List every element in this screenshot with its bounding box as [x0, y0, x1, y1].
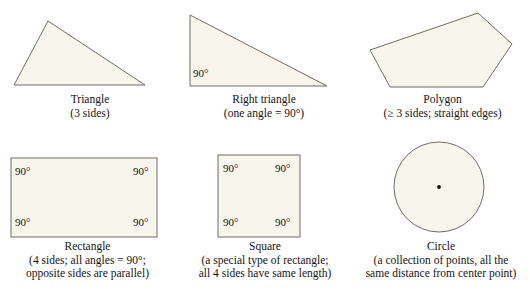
caption-triangle-desc: (3 sides) [20, 107, 160, 121]
caption-circle: Circle (a collection of points, all the … [352, 240, 530, 281]
cut-off-text-remnant [0, 0, 530, 4]
right-triangle-shape [190, 15, 327, 86]
caption-right-triangle-name: Right triangle [188, 93, 340, 107]
circle-center-point [437, 185, 441, 189]
caption-square-desc-line1: (a special type of rectangle; [175, 254, 355, 268]
angle-label-rectangle-3: 90° [15, 217, 30, 228]
caption-square-name: Square [175, 240, 355, 254]
circle-shape [394, 142, 484, 232]
caption-rectangle-desc-line1: (4 sides; all angles = 90°; [0, 254, 175, 268]
caption-right-triangle: Right triangle (one angle = 90°) [188, 93, 340, 120]
angle-label-square-3: 90° [223, 217, 238, 228]
angle-label-rectangle-4: 90° [133, 217, 148, 228]
caption-polygon: Polygon (≥ 3 sides; straight edges) [355, 93, 530, 120]
caption-circle-name: Circle [352, 240, 530, 254]
caption-square-desc-line2: all 4 sides have same length) [175, 267, 355, 281]
polygon-shape [370, 13, 512, 87]
caption-circle-desc-line2: same distance from center point) [352, 267, 530, 281]
angle-label-square-1: 90° [223, 163, 238, 174]
caption-triangle-name: Triangle [20, 93, 160, 107]
angle-label-right-triangle-1: 90° [193, 68, 208, 79]
angle-label-square-2: 90° [275, 163, 290, 174]
caption-rectangle-desc-line2: opposite sides are parallel) [0, 267, 175, 281]
caption-rectangle: Rectangle (4 sides; all angles = 90°; op… [0, 240, 175, 281]
caption-right-triangle-desc: (one angle = 90°) [188, 107, 340, 121]
angle-label-rectangle-2: 90° [133, 166, 148, 177]
angle-label-square-4: 90° [275, 217, 290, 228]
triangle-shape [14, 21, 145, 85]
caption-triangle: Triangle (3 sides) [20, 93, 160, 120]
caption-rectangle-name: Rectangle [0, 240, 175, 254]
caption-polygon-desc: (≥ 3 sides; straight edges) [355, 107, 530, 121]
caption-polygon-name: Polygon [355, 93, 530, 107]
caption-square: Square (a special type of rectangle; all… [175, 240, 355, 281]
caption-circle-desc-line1: (a collection of points, all the [352, 254, 530, 268]
geometry-shapes-figure: 90°90°90°90°90°90°90°90°90° Triangle (3 … [0, 0, 530, 300]
angle-label-rectangle-1: 90° [15, 166, 30, 177]
